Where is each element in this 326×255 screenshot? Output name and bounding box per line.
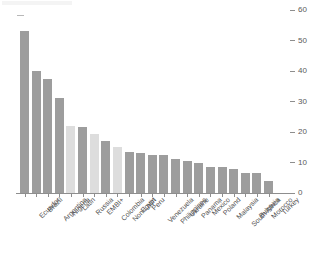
y-axis-tick-mark <box>290 71 295 72</box>
y-axis-tick-label: 60 <box>298 5 307 15</box>
x-axis-tick <box>117 194 118 197</box>
x-axis-line <box>16 193 292 194</box>
x-axis-tick <box>187 194 188 197</box>
y-axis-tick-label: 40 <box>298 66 307 76</box>
y-axis-tick-label: 30 <box>298 97 307 107</box>
bar <box>171 159 180 193</box>
x-axis-tick <box>141 194 142 197</box>
bar <box>183 161 192 193</box>
bar <box>241 173 250 193</box>
x-axis-tick <box>129 194 130 197</box>
bar <box>159 155 168 193</box>
bar <box>148 155 157 193</box>
bar <box>43 79 52 193</box>
x-axis-tick <box>257 194 258 197</box>
bar <box>206 167 215 193</box>
x-axis-tick <box>222 194 223 197</box>
y-axis-tick-mark <box>290 193 295 194</box>
x-axis-labels: EcuadorBrazilArgentinaNigeriaLatinRussia… <box>0 196 326 255</box>
bar <box>136 153 145 193</box>
x-axis-tick <box>176 194 177 197</box>
bar <box>113 147 122 193</box>
y-axis-tick-mark <box>290 132 295 133</box>
bar <box>32 71 41 193</box>
bar <box>125 152 134 193</box>
x-axis-tick <box>199 194 200 197</box>
bar <box>194 163 203 194</box>
y-axis-tick-label: 50 <box>298 36 307 46</box>
y-axis-tick: 20 <box>290 127 307 137</box>
bar <box>101 141 110 193</box>
y-axis-tick: 60 <box>290 5 307 15</box>
x-axis-tick <box>94 194 95 197</box>
y-axis-tick-mark <box>290 101 295 102</box>
y-axis-tick: 10 <box>290 158 307 168</box>
x-axis-tick <box>59 194 60 197</box>
bar <box>264 181 273 193</box>
x-axis-tick <box>106 194 107 197</box>
x-axis-tick <box>152 194 153 197</box>
bar <box>229 169 238 193</box>
x-axis-tick <box>71 194 72 197</box>
y-axis-tick: 40 <box>290 66 307 76</box>
y-axis-tick-mark <box>290 40 295 41</box>
bar <box>20 31 29 193</box>
bar <box>78 127 87 193</box>
x-axis-tick <box>48 194 49 197</box>
top-edge-artifact <box>2 1 72 5</box>
y-axis-tick-label: 20 <box>298 127 307 137</box>
bar <box>55 98 64 193</box>
x-axis-tick <box>25 194 26 197</box>
plot-area <box>16 10 288 193</box>
y-axis-tick-label: 10 <box>298 158 307 168</box>
y-axis-tick-mark <box>290 10 295 11</box>
bar <box>218 167 227 193</box>
bar-chart: 0102030405060 EcuadorBrazilArgentinaNige… <box>0 0 326 255</box>
y-axis-tick-mark <box>290 162 295 163</box>
bar <box>90 134 99 193</box>
x-axis-tick <box>83 194 84 197</box>
x-axis-tick <box>210 194 211 197</box>
bar <box>252 173 261 193</box>
x-axis-label: Brazil <box>46 196 64 214</box>
y-axis-tick: 50 <box>290 36 307 46</box>
x-axis-tick <box>234 194 235 197</box>
x-axis-tick <box>245 194 246 197</box>
y-axis-tick: 30 <box>290 97 307 107</box>
x-axis-tick <box>164 194 165 197</box>
x-axis-tick <box>36 194 37 197</box>
x-axis-tick <box>269 194 270 197</box>
bar <box>66 126 75 193</box>
